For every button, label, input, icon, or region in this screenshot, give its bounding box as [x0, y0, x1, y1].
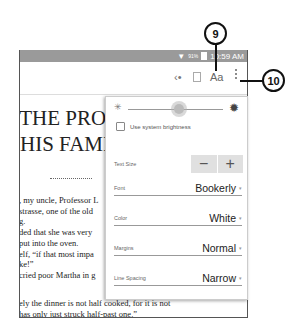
use-system-brightness-checkbox[interactable]: Use system brightness	[116, 122, 191, 131]
battery-percent: 91%	[188, 53, 198, 59]
slider-thumb[interactable]	[174, 104, 184, 114]
sun-large-icon: ✹	[229, 101, 239, 115]
text-size-stepper: − +	[191, 155, 243, 173]
color-select[interactable]: Color White ▾	[114, 208, 242, 226]
checkbox[interactable]	[116, 122, 125, 131]
chapter-divider	[50, 178, 92, 179]
status-bar: ▼ 91% 10:59 AM	[20, 50, 247, 62]
margins-select[interactable]: Margins Normal ▾	[114, 238, 242, 256]
font-settings-button[interactable]: Aa	[210, 70, 223, 84]
sun-small-icon: ✳	[114, 102, 122, 112]
decrease-text-size-button[interactable]: −	[191, 155, 218, 173]
callout-line	[240, 80, 263, 82]
brightness-slider[interactable]: ✳ ✹	[114, 102, 239, 116]
book-paragraph: ely the dinner is not half cooked, for i…	[19, 298, 170, 318]
callout-9: 9	[204, 22, 227, 45]
text-size-label: Text Size	[114, 161, 136, 167]
battery-icon	[201, 52, 207, 60]
dropdown-arrow-icon: ▾	[239, 275, 242, 281]
font-select[interactable]: Font Bookerly ▾	[114, 178, 242, 196]
reading-settings-panel: ✳ ✹ Use system brightness Text Size − + …	[105, 96, 248, 300]
share-icon[interactable]: ‹•	[174, 70, 182, 84]
dropdown-arrow-icon: ▾	[239, 245, 242, 251]
reader-toolbar: ‹• Aa	[20, 62, 247, 95]
callout-10: 10	[262, 69, 285, 92]
book-icon[interactable]	[193, 72, 201, 82]
dropdown-arrow-icon: ▾	[239, 185, 242, 191]
dropdown-arrow-icon: ▾	[239, 215, 242, 221]
increase-text-size-button[interactable]: +	[218, 155, 244, 173]
callout-line	[215, 45, 217, 71]
more-vert-icon[interactable]	[235, 69, 238, 81]
book-paragraph: , my uncle, Professor L strasse, one of …	[19, 195, 98, 281]
wifi-signal-icon: ▼	[177, 52, 185, 61]
line-spacing-select[interactable]: Line Spacing Narrow ▾	[114, 268, 242, 286]
